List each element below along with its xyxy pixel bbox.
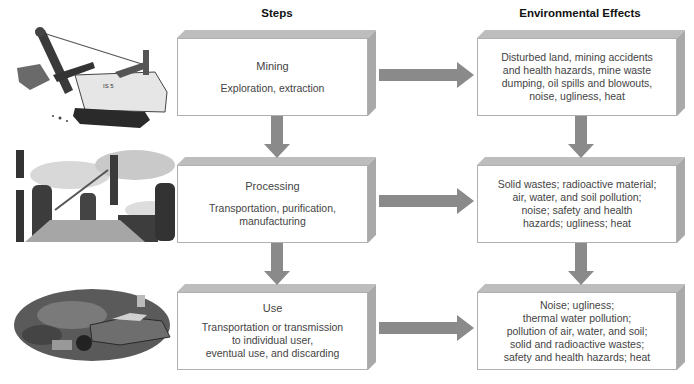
effect-line: solid and radioactive wastes; [510,338,644,351]
effect-line: hazards; ugliness; heat [523,217,631,230]
effect-line: dumping, oil spills and blowouts, [502,77,653,90]
effect-line: pollution of air, water, and soil; [507,325,648,338]
effects-box-mining: Disturbed land, mining accidents and hea… [477,30,685,116]
arrow-right-icon [379,62,474,88]
svg-text:IS 5: IS 5 [103,83,114,89]
arrow-down-icon [568,116,594,158]
step-desc-line: Transportation, purification, [209,202,336,215]
arrow-down-icon [568,243,594,285]
steps-header: Steps [232,7,322,19]
effect-line: Solid wastes; radioactive material; [498,178,657,191]
effect-line: safety and health hazards; heat [504,351,651,364]
arrow-down-icon [264,243,290,285]
step-desc-line: Transportation or transmission [202,321,343,334]
effect-line: noise, ugliness, heat [529,90,625,103]
power-shovel-illustration: IS 5 [5,20,170,130]
smokestacks-illustration [10,145,175,245]
effect-line: air, water, and soil pollution; [513,191,642,204]
effect-line: thermal water pollution; [523,312,632,325]
step-box-use: Use Transportation or transmission to in… [177,284,376,370]
step-desc-line: to individual user, [232,334,313,347]
step-desc-line: eventual use, and discarding [206,347,340,360]
effect-line: Noise; ugliness; [540,299,614,312]
arrow-down-icon [264,116,290,158]
step-box-processing: Processing Transportation, purification,… [177,157,376,243]
step-title: Processing [245,180,299,193]
step-title: Use [263,302,283,315]
step-box-mining: Mining Exploration, extraction [177,30,376,116]
step-title: Mining [256,60,288,73]
arrow-right-icon [379,188,474,214]
effect-line: noise; safety and health [522,204,633,217]
effects-box-use: Noise; ugliness; thermal water pollution… [477,284,685,370]
junkyard-illustration [12,285,172,365]
step-desc: Exploration, extraction [221,82,325,95]
arrow-right-icon [379,315,474,341]
effects-header: Environmental Effects [500,7,660,19]
step-desc-line: manufacturing [239,215,306,228]
effects-box-processing: Solid wastes; radioactive material; air,… [477,157,685,243]
effect-line: and health hazards, mine waste [503,64,651,77]
effect-line: Disturbed land, mining accidents [501,51,653,64]
